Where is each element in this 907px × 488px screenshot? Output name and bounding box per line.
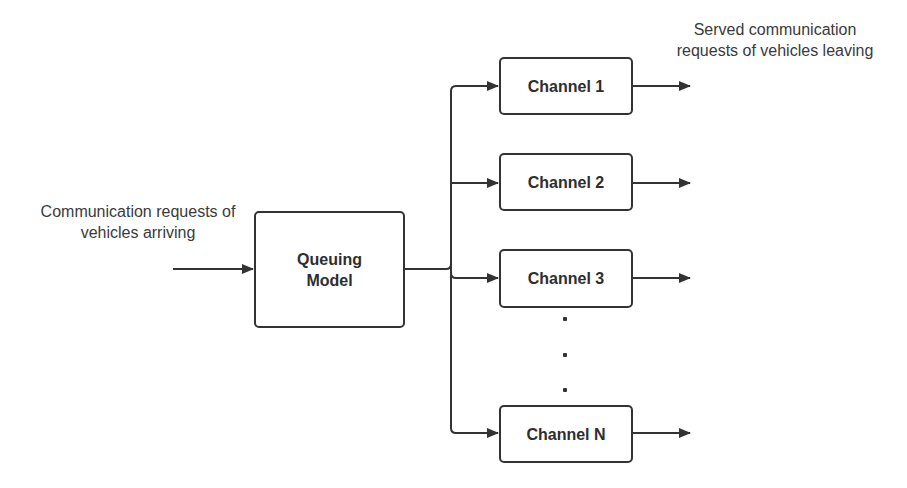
queuing-model-label-line1: Queuing (297, 249, 362, 270)
input-label-line2: vehicles arriving (18, 222, 258, 243)
ellipsis-dot-3 (563, 388, 567, 392)
distribution-trunk (451, 86, 456, 433)
ellipsis-dot-2 (563, 353, 567, 357)
channel-n-box: Channel N (499, 405, 633, 463)
channel-2-label: Channel 2 (528, 172, 604, 193)
queue-output-line (404, 264, 451, 269)
channel-2-box: Channel 2 (499, 153, 633, 211)
channel-n-label: Channel N (526, 424, 605, 445)
branch-arrow-channel-3 (451, 273, 498, 278)
output-label: Served communication requests of vehicle… (655, 19, 895, 61)
queuing-model-label-line2: Model (297, 270, 362, 291)
ellipsis-dot-1 (563, 317, 567, 321)
channel-3-box: Channel 3 (499, 249, 633, 308)
channel-3-label: Channel 3 (528, 268, 604, 289)
output-label-line1: Served communication (655, 19, 895, 40)
input-label-line1: Communication requests of (18, 201, 258, 222)
connector-lines (0, 0, 907, 488)
input-label: Communication requests of vehicles arriv… (18, 201, 258, 243)
queuing-model-box: Queuing Model (254, 211, 405, 328)
channel-1-label: Channel 1 (528, 76, 604, 97)
output-label-line2: requests of vehicles leaving (655, 40, 895, 61)
channel-1-box: Channel 1 (499, 57, 633, 115)
